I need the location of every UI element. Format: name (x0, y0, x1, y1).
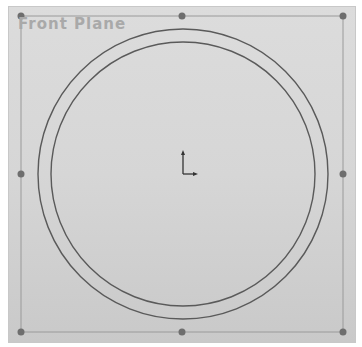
plane-name-label: Front Plane (18, 15, 126, 33)
sketch-canvas[interactable] (0, 0, 362, 347)
front-plane-border[interactable] (21, 16, 343, 332)
plane-handles (18, 13, 347, 336)
handle-mid-right[interactable] (340, 171, 347, 178)
sketch-origin-icon (181, 150, 198, 176)
handle-top-right[interactable] (340, 13, 347, 20)
handle-bottom-right[interactable] (340, 329, 347, 336)
handle-bottom-mid[interactable] (179, 329, 186, 336)
handle-top-mid[interactable] (179, 13, 186, 20)
handle-mid-left[interactable] (18, 171, 25, 178)
handle-bottom-left[interactable] (18, 329, 25, 336)
